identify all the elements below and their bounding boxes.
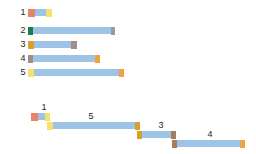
bar-top_chart-3 (28, 41, 77, 48)
bar-end-cap-top_chart-2 (111, 27, 115, 35)
bar-top_chart-2 (28, 27, 115, 34)
bar-label-top_chart-1: 1 (18, 8, 28, 17)
bar-start-cap-bottom_chart-4 (172, 140, 177, 148)
bar-start-cap-bottom_chart-3 (137, 131, 142, 139)
bar-end-cap-bottom_chart-5 (135, 122, 140, 130)
bar-end-cap-bottom_chart-4 (240, 140, 245, 148)
bar-end-cap-top_chart-1 (46, 9, 52, 17)
bar-end-cap-top_chart-3 (71, 41, 77, 49)
bar-top_chart-5 (28, 69, 124, 76)
bar-label-top_chart-4: 4 (18, 54, 28, 63)
bar-label-bottom_chart-4: 4 (204, 130, 216, 139)
bar-label-top_chart-5: 5 (18, 68, 28, 77)
bar-top_chart-1 (28, 9, 52, 16)
bar-top_chart-4 (28, 55, 100, 62)
bar-label-bottom_chart-5: 5 (85, 112, 97, 121)
bar-label-top_chart-3: 3 (18, 40, 28, 49)
bar-start-cap-bottom_chart-5 (47, 122, 53, 130)
bar-bottom_chart-1 (31, 113, 50, 120)
bar-start-cap-top_chart-4 (28, 55, 33, 63)
bar-start-cap-bottom_chart-1 (31, 113, 38, 121)
bar-end-cap-bottom_chart-3 (171, 131, 176, 139)
bar-label-bottom_chart-3: 3 (155, 121, 167, 130)
chart-canvas: 123451534 (0, 0, 256, 154)
bar-bottom_chart-3 (137, 131, 176, 138)
bar-start-cap-top_chart-5 (28, 69, 34, 77)
bar-bottom_chart-5 (47, 122, 140, 129)
bar-start-cap-top_chart-3 (28, 41, 34, 49)
bar-end-cap-bottom_chart-1 (45, 113, 50, 121)
bar-start-cap-top_chart-1 (28, 9, 35, 17)
bar-end-cap-top_chart-5 (119, 69, 124, 77)
bar-label-top_chart-2: 2 (18, 26, 28, 35)
bar-start-cap-top_chart-2 (28, 27, 33, 35)
bar-end-cap-top_chart-4 (95, 55, 100, 63)
bar-label-bottom_chart-1: 1 (38, 103, 50, 112)
bar-bottom_chart-4 (172, 140, 245, 147)
